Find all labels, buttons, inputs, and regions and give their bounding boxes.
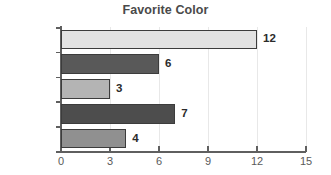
bar[interactable] (61, 129, 126, 149)
x-axis-tick-label: 9 (205, 155, 211, 167)
y-axis-tick (56, 77, 61, 79)
bar-value-label: 12 (263, 32, 276, 44)
bar[interactable] (61, 30, 257, 50)
x-axis-tick-label: 6 (156, 155, 162, 167)
y-axis-tick (56, 126, 61, 128)
bar-value-label: 4 (132, 132, 138, 144)
bar-row: 3 (61, 79, 306, 99)
x-axis-tick-label: 3 (107, 155, 113, 167)
bar[interactable] (61, 104, 175, 124)
bar-row: 7 (61, 104, 306, 124)
gridline (306, 27, 307, 151)
bar-row: 12 (61, 30, 306, 50)
x-axis-tick-label: 0 (58, 155, 64, 167)
bar-value-label: 6 (165, 57, 171, 69)
bar-row: 4 (61, 129, 306, 149)
bar-chart: Favorite Color 0369121512Cyan6Purple3Gre… (0, 0, 331, 175)
chart-title: Favorite Color (0, 3, 331, 17)
x-axis-tick-label: 12 (251, 155, 263, 167)
y-axis-tick (56, 101, 61, 103)
y-axis-tick (56, 52, 61, 54)
bar[interactable] (61, 54, 159, 74)
y-axis-tick (56, 27, 61, 29)
bar-row: 6 (61, 54, 306, 74)
y-axis-tick (56, 151, 61, 153)
x-axis-tick-label: 15 (300, 155, 312, 167)
bar[interactable] (61, 79, 110, 99)
x-axis-line (60, 151, 306, 153)
bar-value-label: 7 (181, 107, 187, 119)
bar-value-label: 3 (116, 82, 122, 94)
